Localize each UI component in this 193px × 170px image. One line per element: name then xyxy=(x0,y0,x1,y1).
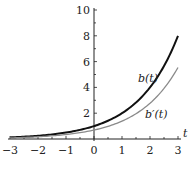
y-tick-label: 8 xyxy=(83,30,90,43)
x-tick-label: 2 xyxy=(147,144,154,157)
y-tick-label: 6 xyxy=(83,56,90,69)
bprime-curve-label: b′(t) xyxy=(145,108,168,121)
x-tick-label: 3 xyxy=(175,144,182,157)
x-tick-label: −1 xyxy=(58,144,74,157)
y-tick-label: 2 xyxy=(83,107,90,120)
y-tick-label: 10 xyxy=(76,4,90,17)
x-tick-label: −2 xyxy=(30,144,46,157)
y-tick-label: 4 xyxy=(83,81,90,94)
x-axis-label: t xyxy=(183,127,188,140)
chart: −3−2−10123246810 b(t) b′(t) t xyxy=(0,0,193,170)
x-tick-label: −3 xyxy=(2,144,18,157)
x-tick-label: 0 xyxy=(91,144,98,157)
x-tick-label: 1 xyxy=(119,144,126,157)
b-curve-label: b(t) xyxy=(138,72,158,85)
